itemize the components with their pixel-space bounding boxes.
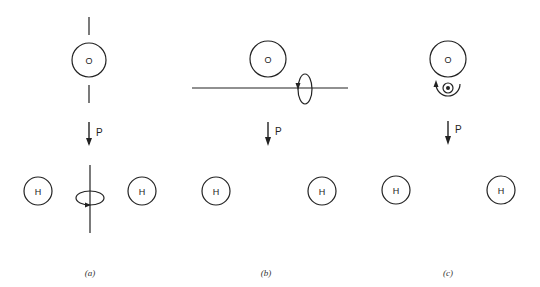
svg-text:H: H <box>498 186 505 196</box>
dipole-arrow: P <box>265 122 282 146</box>
dipole-arrow: P <box>86 122 103 146</box>
svg-text:H: H <box>213 187 220 197</box>
dipole-arrow: P <box>445 121 462 145</box>
oxygen-label: O <box>85 56 92 66</box>
arrow-down-icon <box>265 137 271 146</box>
panel-label-c: (c) <box>443 268 453 278</box>
arrow-down-icon <box>86 138 92 146</box>
svg-text:H: H <box>393 186 400 196</box>
oxygen-atom: O <box>430 41 466 77</box>
rotation-arrow-icon <box>296 83 301 90</box>
hydrogen-atom-right: H <box>487 176 515 204</box>
panel-label-b: (b) <box>261 268 272 278</box>
rotation-ellipse <box>298 74 312 104</box>
hydrogen-atom-right: H <box>128 177 156 205</box>
rotation-axis <box>192 74 348 104</box>
svg-text:O: O <box>264 55 271 65</box>
svg-text:H: H <box>139 187 146 197</box>
panel-label-a: (a) <box>85 268 96 278</box>
water-rotation-diagram: O P H H (a) O <box>0 0 540 287</box>
dipole-label: P <box>96 127 103 138</box>
hydrogen-atom-right: H <box>308 177 336 205</box>
rotation-arrow-icon <box>434 80 439 87</box>
svg-text:H: H <box>319 187 326 197</box>
arrow-down-icon <box>445 136 451 145</box>
oxygen-atom: O <box>250 41 286 77</box>
rotation-axis <box>76 165 104 233</box>
dipole-label: P <box>275 126 282 137</box>
panel-a: O P H H (a) <box>24 17 156 278</box>
hydrogen-atom-left: H <box>382 176 410 204</box>
dipole-label: P <box>455 124 462 135</box>
out-of-plane-axis <box>434 80 461 96</box>
svg-text:H: H <box>35 187 42 197</box>
panel-c: O P H H (c) <box>382 41 515 278</box>
oxygen-atom: O <box>72 43 106 77</box>
svg-text:O: O <box>444 55 451 65</box>
hydrogen-atom-left: H <box>24 177 52 205</box>
hydrogen-atom-left: H <box>202 177 230 205</box>
panel-b: O P H H (b) <box>192 41 348 278</box>
